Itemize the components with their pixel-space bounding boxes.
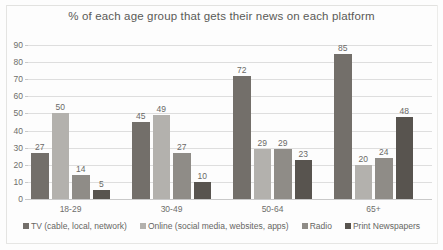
legend-item[interactable]: TV (cable, local, network): [23, 221, 127, 231]
x-axis-category-label: 30-49: [161, 204, 183, 214]
y-axis-tick-label: 0: [18, 194, 23, 204]
y-axis-tick-mark: [25, 79, 28, 80]
bar-value-label: 23: [299, 149, 308, 159]
bar: [396, 117, 414, 199]
y-axis-tick-mark: [25, 148, 28, 149]
bar: [334, 54, 352, 199]
bar-value-label: 49: [157, 104, 166, 114]
legend-label: Radio: [310, 221, 332, 231]
chart-title: % of each age group that gets their news…: [0, 10, 443, 22]
legend-item[interactable]: Online (social media, websites, apps): [140, 221, 289, 231]
page-border-top: [6, 5, 438, 6]
y-axis-tick-mark: [25, 182, 28, 183]
y-axis-tick-mark: [25, 96, 28, 97]
legend-label: TV (cable, local, network): [31, 221, 127, 231]
bar-value-label: 85: [338, 43, 347, 53]
gridline: [28, 148, 432, 149]
y-axis-tick-mark: [25, 45, 28, 46]
bar: [233, 76, 251, 199]
y-axis-tick-mark: [25, 199, 28, 200]
plot-area: 0102030405060708090 27501454549271072292…: [28, 45, 432, 199]
bar-value-label: 5: [99, 179, 104, 189]
bar-value-label: 29: [278, 138, 287, 148]
legend-swatch-icon: [302, 223, 308, 229]
bar-value-label: 10: [198, 171, 207, 181]
gridline: [28, 131, 432, 132]
bar: [375, 158, 393, 199]
bar: [355, 165, 373, 199]
x-axis-category-label: 65+: [366, 204, 380, 214]
bar: [132, 122, 150, 199]
bar: [93, 190, 111, 199]
y-axis-tick-mark: [25, 165, 28, 166]
bar: [173, 153, 191, 199]
legend-swatch-icon: [23, 223, 29, 229]
y-axis-tick-mark: [25, 62, 28, 63]
bar: [72, 175, 90, 199]
bar-value-label: 24: [379, 147, 388, 157]
y-axis-tick-mark: [25, 113, 28, 114]
bar-value-label: 27: [35, 142, 44, 152]
bar: [52, 113, 70, 199]
legend-label: Print Newspapers: [353, 221, 420, 231]
legend-swatch-icon: [345, 223, 351, 229]
gridline: [28, 79, 432, 80]
y-axis-tick-label: 70: [14, 74, 23, 84]
gridline: [28, 113, 432, 114]
bar-value-label: 14: [76, 164, 85, 174]
gridline: [28, 96, 432, 97]
bar-value-label: 50: [56, 102, 65, 112]
bar: [254, 149, 272, 199]
bar-value-label: 20: [359, 154, 368, 164]
bar: [153, 115, 171, 199]
bar-value-label: 29: [258, 138, 267, 148]
legend-item[interactable]: Print Newspapers: [345, 221, 420, 231]
bar-value-label: 45: [136, 111, 145, 121]
legend-swatch-icon: [140, 223, 146, 229]
bar: [274, 149, 292, 199]
bar: [194, 182, 212, 199]
bar-value-label: 27: [177, 142, 186, 152]
legend-label: Online (social media, websites, apps): [148, 221, 289, 231]
y-axis-tick-label: 50: [14, 108, 23, 118]
gridline: [28, 62, 432, 63]
page-border-left: [6, 5, 7, 243]
y-axis-tick-label: 20: [14, 160, 23, 170]
x-axis-category-label: 50-64: [262, 204, 284, 214]
page-border-right: [437, 5, 438, 243]
legend-item[interactable]: Radio: [302, 221, 332, 231]
y-axis-tick-label: 30: [14, 143, 23, 153]
page-border-bottom: [6, 243, 438, 244]
chart-page: % of each age group that gets their news…: [0, 0, 443, 250]
bar: [31, 153, 49, 199]
gridline: [28, 45, 432, 46]
bar-value-label: 48: [400, 106, 409, 116]
chart-legend: TV (cable, local, network)Online (social…: [0, 221, 443, 231]
y-axis-tick-label: 10: [14, 177, 23, 187]
x-axis-category-label: 18-29: [60, 204, 82, 214]
y-axis-tick-label: 40: [14, 126, 23, 136]
y-axis-tick-label: 90: [14, 40, 23, 50]
x-axis-line: [28, 199, 432, 200]
y-axis-tick-label: 60: [14, 91, 23, 101]
bar-value-label: 72: [237, 65, 246, 75]
bar: [295, 160, 313, 199]
y-axis-tick-mark: [25, 131, 28, 132]
y-axis-tick-label: 80: [14, 57, 23, 67]
